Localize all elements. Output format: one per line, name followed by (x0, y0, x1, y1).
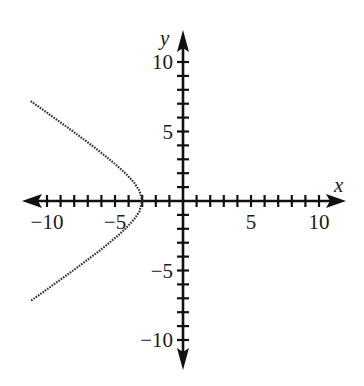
x-axis-label: x (333, 173, 344, 197)
x-tick-label: 5 (246, 210, 257, 234)
y-tick-label: −5 (151, 259, 173, 283)
y-axis-label: y (158, 26, 170, 50)
y-tick-label: 5 (163, 120, 174, 144)
x-tick-label: 10 (309, 210, 330, 234)
y-tick-label: −10 (140, 328, 173, 352)
y-tick-label: 10 (152, 50, 173, 74)
x-tick-label: −10 (31, 210, 64, 234)
coordinate-plane: −10−5510105−5−10 x y (0, 0, 364, 386)
